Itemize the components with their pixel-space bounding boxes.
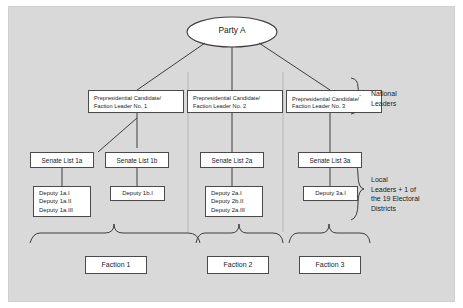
candidate-1-line2: Faction Leader No. 1 [94,102,147,110]
deputy-2a-line-3: Deputy 2a.III [211,206,245,214]
deputy-box-1b[interactable]: Deputy 1b.I [110,186,165,201]
deputy-box-3a[interactable]: Deputy 3a.I [303,186,358,201]
faction-box-1[interactable]: Faction 1 [85,256,147,274]
senate-list-1a-label: Senate List 1a [42,156,83,165]
deputy-box-2a[interactable]: Deputy 2a.I Deputy 2b.II Deputy 2a.III [205,186,263,217]
senate-list-1b-label: Senate List 1b [117,156,158,165]
local-leaders-line-3: the 19 Electoral [371,194,420,204]
candidate-box-2[interactable]: Prepresidential Candidate/ Faction Leade… [187,90,283,113]
local-leaders-line-4: Districts [371,204,420,214]
brace-faction-3 [289,224,370,243]
diagram-page: Party A Prepresidential Candidate/ Facti… [0,0,463,308]
senate-list-3a-label: Senate List 3a [310,156,351,165]
candidate-box-1[interactable]: Prepresidential Candidate/ Faction Leade… [88,90,184,113]
senate-list-2a-label: Senate List 2a [212,156,253,165]
candidate-2-line2: Faction Leader No. 2 [193,102,246,110]
edge-root-candidate-3 [259,43,330,90]
senate-list-box-3a[interactable]: Senate List 3a [298,152,362,168]
annotation-local-leaders: Local Leaders + 1 of the 19 Electoral Di… [371,175,420,213]
brace-faction-1 [30,224,200,243]
deputy-box-1a[interactable]: Deputy 1a.I Deputy 1a.II Deputy 1a.III [33,186,91,217]
faction-box-3[interactable]: Faction 3 [299,256,361,274]
annotation-national-leaders: National Leaders [371,89,397,108]
faction-2-label: Faction 2 [224,260,253,270]
deputy-3a-line-1: Deputy 3a.I [315,189,346,197]
faction-1-label: Faction 1 [102,260,131,270]
brace-faction-2 [196,224,283,243]
local-leaders-line-2: Leaders + 1 of [371,185,420,195]
deputy-1a-line-1: Deputy 1a.I [39,189,70,197]
candidate-1-line1: Prepresidential Candidate/ [94,94,161,102]
candidate-2-line1: Prepresidential Candidate/ [193,94,260,102]
party-a-label: Party A [187,25,277,35]
candidate-3-line1: Prepresidential Candidate/* [292,93,361,103]
candidate-3-text: Prepresidential Candidate/ [292,95,359,101]
edge-candidate1-senate1a [98,118,137,152]
senate-list-box-2a[interactable]: Senate List 2a [200,152,264,168]
local-leaders-line-1: Local [371,175,420,185]
candidate-box-3[interactable]: Prepresidential Candidate/* Faction Lead… [286,90,382,113]
deputy-2a-line-2: Deputy 2b.II [211,197,243,205]
national-leaders-line-1: National [371,89,397,99]
deputy-1a-line-3: Deputy 1a.III [39,206,73,214]
candidate-3-footnote-marker: * [359,94,361,99]
faction-3-label: Faction 3 [316,260,345,270]
candidate-3-line2: Faction Leader No. 3 [292,102,345,110]
deputy-1a-line-2: Deputy 1a.II [39,197,71,205]
faction-box-2[interactable]: Faction 2 [207,256,269,274]
senate-list-box-1a[interactable]: Senate List 1a [30,152,94,168]
senate-list-box-1b[interactable]: Senate List 1b [105,152,169,168]
national-leaders-line-2: Leaders [371,99,397,109]
edge-root-candidate-1 [137,43,205,90]
deputy-2a-line-1: Deputy 2a.I [211,189,242,197]
deputy-1b-line-1: Deputy 1b.I [122,189,153,197]
